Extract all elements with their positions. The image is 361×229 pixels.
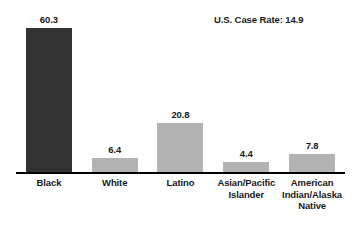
category-label-line: White <box>82 177 148 189</box>
bar-group: 60.3 <box>16 10 82 173</box>
bar[interactable] <box>289 154 335 173</box>
category-label-line: American <box>270 177 354 189</box>
category-label-line: Indian/Alaska <box>270 189 354 201</box>
category-label: AmericanIndian/AlaskaNative <box>270 177 354 212</box>
bar[interactable] <box>26 28 72 173</box>
category-label: White <box>82 177 148 189</box>
plot-area: 60.36.420.84.47.8 <box>16 10 345 173</box>
category-label: Black <box>16 177 82 189</box>
bar-value-label: 7.8 <box>279 140 345 151</box>
bar-chart: U.S. Case Rate: 14.9 60.36.420.84.47.8 B… <box>0 0 361 229</box>
bar[interactable] <box>157 123 203 173</box>
category-label-line: Native <box>270 200 354 212</box>
bar-value-label: 20.8 <box>148 109 214 120</box>
bar-group: 20.8 <box>148 10 214 173</box>
bar-value-label: 60.3 <box>16 14 82 25</box>
x-axis-baseline <box>16 172 345 174</box>
bar-group: 4.4 <box>213 10 279 173</box>
bar[interactable] <box>92 158 138 173</box>
bar-value-label: 6.4 <box>82 144 148 155</box>
bar-value-label: 4.4 <box>213 148 279 159</box>
category-label-line: Black <box>16 177 82 189</box>
bar-group: 7.8 <box>279 10 345 173</box>
x-axis-category-labels: BlackWhiteLatinoAsian/PacificIslanderAme… <box>16 177 345 225</box>
bar-group: 6.4 <box>82 10 148 173</box>
